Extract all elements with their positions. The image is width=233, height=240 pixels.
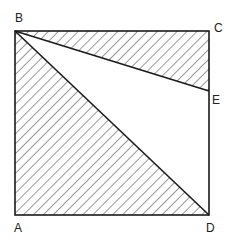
label-c: C xyxy=(214,21,223,35)
label-e: E xyxy=(212,93,220,107)
label-d: D xyxy=(206,221,215,235)
label-a: A xyxy=(14,221,22,235)
geometry-diagram: B C E A D xyxy=(0,0,233,240)
label-b: B xyxy=(15,11,23,25)
